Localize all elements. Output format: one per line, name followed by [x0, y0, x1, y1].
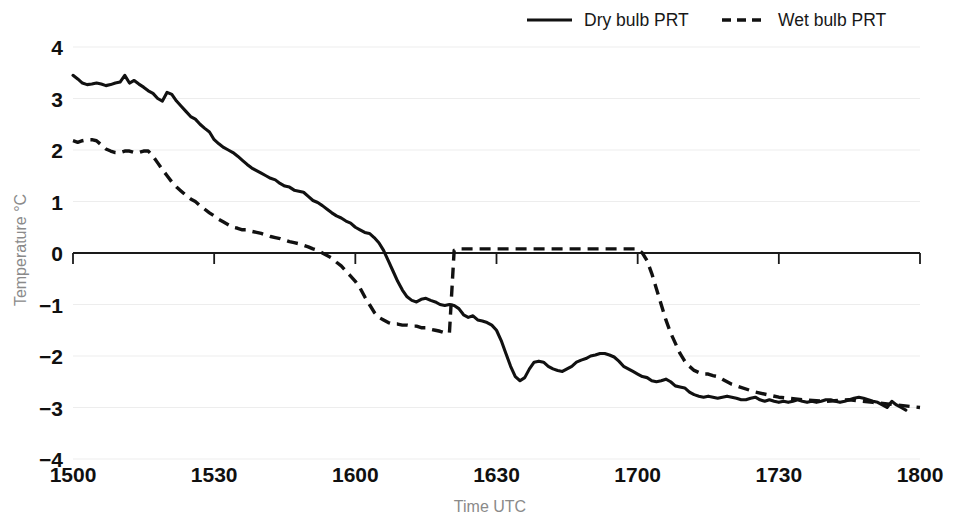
y-tick-label: 1 — [51, 191, 63, 214]
x-tick-label: 1530 — [191, 463, 238, 486]
chart-figure: 43210−1−2−3−4 15001530160016301700173018… — [0, 0, 962, 529]
y-axis-tick-labels: 43210−1−2−3−4 — [39, 36, 63, 471]
temperature-time-series-chart: 43210−1−2−3−4 15001530160016301700173018… — [0, 0, 962, 529]
y-axis-title: Temperature °C — [12, 194, 29, 306]
x-axis-tick-marks — [73, 253, 920, 264]
x-tick-label: 1600 — [332, 463, 379, 486]
y-tick-label: 0 — [51, 242, 63, 265]
x-tick-label: 1700 — [614, 463, 661, 486]
y-tick-label: 3 — [51, 88, 63, 111]
x-tick-label: 1500 — [50, 463, 97, 486]
y-tick-label: −2 — [39, 345, 63, 368]
y-tick-label: −3 — [39, 397, 63, 420]
chart-legend: Dry bulb PRT Wet bulb PRT — [527, 10, 887, 30]
x-axis-title: Time UTC — [454, 498, 526, 515]
series-wet-bulb-prt — [73, 140, 920, 408]
x-tick-label: 1800 — [897, 463, 944, 486]
series-dry-bulb-prt — [73, 75, 906, 410]
data-series-group — [73, 75, 920, 410]
x-axis-tick-labels: 1500153016001630170017301800 — [50, 463, 944, 486]
x-tick-label: 1730 — [755, 463, 802, 486]
legend-label-wet-bulb: Wet bulb PRT — [778, 10, 887, 30]
x-tick-label: 1630 — [473, 463, 520, 486]
y-tick-label: 2 — [51, 139, 63, 162]
y-tick-label: −1 — [39, 294, 63, 317]
legend-label-dry-bulb: Dry bulb PRT — [584, 10, 689, 30]
y-tick-label: 4 — [51, 36, 63, 59]
